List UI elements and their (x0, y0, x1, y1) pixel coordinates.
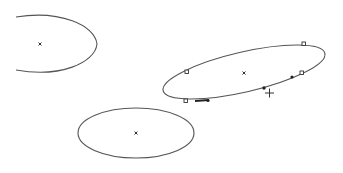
drawing-canvas[interactable] (0, 0, 343, 173)
knot-point[interactable] (262, 86, 265, 89)
center-x-icon (243, 72, 246, 75)
control-handle[interactable] (300, 71, 304, 75)
control-handle[interactable] (302, 42, 306, 46)
knot-point[interactable] (206, 99, 209, 102)
control-handle[interactable] (184, 99, 188, 103)
center-x-icon (135, 132, 138, 135)
knot-point[interactable] (290, 75, 293, 78)
ellipse-bottom[interactable] (78, 108, 194, 158)
ellipse-selected[interactable] (159, 34, 330, 110)
crosshair-cursor-icon (265, 89, 274, 98)
control-handle[interactable] (185, 70, 189, 74)
ellipse-left[interactable] (16, 15, 97, 72)
center-x-icon (39, 43, 42, 46)
